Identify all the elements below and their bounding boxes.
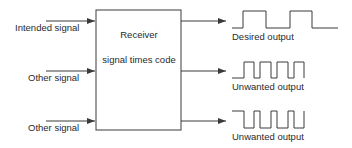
waveform-unwanted-1	[232, 62, 304, 78]
output-label-desired: Desired output	[232, 32, 294, 42]
receiver-title: Receiver	[96, 30, 182, 40]
input-label-other-2: Other signal	[28, 123, 79, 133]
input-label-other-1: Other signal	[28, 73, 79, 83]
input-label-intended: Intended signal	[15, 23, 79, 33]
waveform-desired	[232, 11, 338, 28]
output-label-unwanted-1: Unwanted output	[232, 82, 304, 92]
waveform-unwanted-2	[232, 111, 304, 128]
output-label-unwanted-2: Unwanted output	[232, 132, 304, 142]
receiver-block	[96, 10, 181, 130]
receiver-subtitle: signal times code	[96, 55, 182, 65]
